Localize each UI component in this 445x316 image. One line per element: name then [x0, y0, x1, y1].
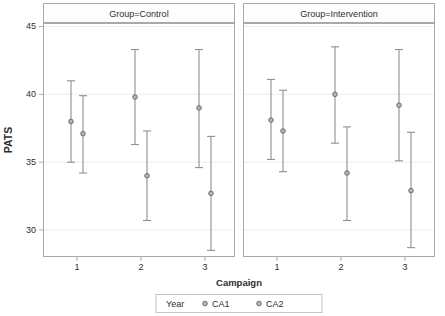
- x-tick-label: 2: [138, 262, 143, 272]
- data-point-marker-ca2: [281, 129, 286, 134]
- y-tick-label: 35: [26, 157, 36, 167]
- data-point-marker-ca2: [345, 171, 350, 176]
- data-point-marker-ca2: [145, 173, 150, 178]
- data-point-marker-ca1: [69, 119, 74, 124]
- x-axis-label: Campaign: [216, 277, 262, 288]
- y-axis-label: PATS: [2, 127, 14, 153]
- y-tick-label: 40: [26, 89, 36, 99]
- data-point-marker-ca1: [197, 106, 202, 111]
- data-point-marker-ca1: [333, 92, 338, 97]
- data-point-marker-ca2: [209, 191, 214, 196]
- panel-plot-area: [44, 24, 235, 257]
- interval-plot-chart: Group=Control123Group=Intervention123303…: [0, 0, 445, 316]
- x-tick-label: 1: [74, 262, 79, 272]
- data-point-marker-ca2: [81, 131, 86, 136]
- legend-marker-ca1: [203, 301, 208, 306]
- x-tick-label: 1: [274, 262, 279, 272]
- legend-title: Year: [166, 299, 184, 309]
- data-point-marker-ca1: [133, 95, 138, 100]
- data-point-marker-ca2: [409, 188, 414, 193]
- legend-entry-label: CA2: [266, 299, 284, 309]
- x-tick-label: 3: [402, 262, 407, 272]
- panel-header-title: Group=Intervention: [300, 9, 377, 19]
- sgpanel-figure: Group=Control123Group=Intervention123303…: [0, 0, 445, 316]
- legend-entry-label: CA1: [212, 299, 230, 309]
- data-point-marker-ca1: [269, 118, 274, 123]
- y-tick-label: 45: [26, 21, 36, 31]
- panel-plot-area: [244, 24, 435, 257]
- legend-marker-ca2: [257, 301, 262, 306]
- y-tick-label: 30: [26, 225, 36, 235]
- data-point-marker-ca1: [397, 103, 402, 108]
- x-tick-label: 3: [202, 262, 207, 272]
- panel-header-title: Group=Control: [109, 9, 168, 19]
- x-tick-label: 2: [338, 262, 343, 272]
